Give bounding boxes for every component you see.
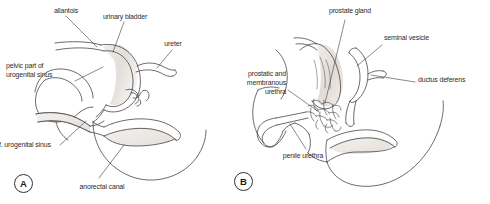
leader-ductus-deferens: [371, 75, 415, 82]
label-urinary-bladder: urinary bladder: [94, 13, 156, 22]
label-prostate-gland: prostate gland: [319, 7, 381, 16]
panel-b-artwork: [253, 38, 444, 187]
label-seminal-vesicle: seminal vesicle: [384, 34, 452, 43]
label-pelvic-part-of-urogenital-sinus-line2: urogenital sinus: [6, 71, 81, 80]
panel-marker-a: A: [14, 174, 33, 193]
label-prostatic-membranous-urethra-line3: urethra: [220, 88, 286, 97]
label-penile-urethra: penile urethra: [268, 152, 338, 161]
leader-prost-memb-urethra: [288, 90, 319, 112]
anatomical-figure: allantois urinary bladder ureter pelvic …: [0, 0, 490, 204]
leader-anorectal-canal: [99, 145, 124, 178]
label-anorectal-canal: anorectal canal: [64, 183, 139, 192]
label-ureter: ureter: [153, 40, 192, 49]
leader-ureter: [157, 50, 172, 68]
leader-allantois: [66, 16, 97, 47]
label-ductus-deferens: ductus deferens: [418, 76, 486, 85]
label-allantois: allantois: [38, 7, 94, 16]
label-definitive-urogenital-sinus: f. urogenital sinus: [0, 141, 76, 150]
panel-marker-b: B: [234, 172, 253, 191]
leader-seminal-vesicle: [357, 45, 382, 66]
